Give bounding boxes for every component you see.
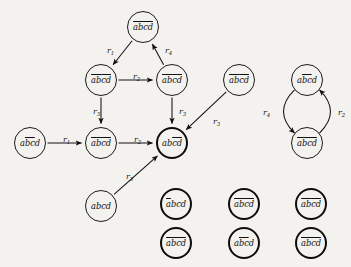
edge-label-subscript: 3 (97, 111, 100, 117)
edge-label-subscript: 2 (137, 76, 140, 82)
state-node: abcd (295, 188, 327, 220)
state-label: abcd (229, 75, 249, 84)
state-node: abcd (160, 227, 192, 259)
edge-label-subscript: 3 (130, 176, 133, 182)
edge-label: r3 (179, 107, 186, 116)
edge-label-subscript: 4 (267, 112, 270, 118)
state-node: abcd (291, 64, 323, 96)
state-label: abcd (162, 75, 182, 84)
state-label: abcd (91, 201, 111, 210)
state-node: abcd (127, 11, 159, 43)
state-label: abcd (166, 238, 186, 247)
state-node: abcd (291, 127, 323, 159)
edge-label-subscript: 3 (217, 121, 220, 127)
state-label: abcd (301, 238, 321, 247)
transition-arrow (113, 41, 132, 65)
transition-arrow (152, 44, 163, 65)
diagram-canvas: abcdabcdabcdabcdabcdabcdabcdabcdabcdabcd… (0, 0, 351, 267)
state-label: abcd (166, 199, 186, 208)
transition-arrow (284, 90, 295, 133)
transition-arrow (319, 90, 330, 133)
edge-label: r1 (107, 46, 114, 55)
state-node: abcd (85, 127, 117, 159)
state-label: abcd (234, 238, 254, 247)
edge-label-subscript: 2 (138, 139, 141, 145)
edge-label: r3 (93, 107, 100, 116)
state-node: abcd (156, 127, 188, 159)
edge-label-subscript: 3 (183, 111, 186, 117)
edge-label: r2 (338, 108, 345, 117)
state-node: abcd (156, 64, 188, 96)
edge-label-subscript: 2 (342, 112, 345, 118)
edge-label: r4 (165, 46, 172, 55)
state-node: abcd (14, 127, 46, 159)
edge-label-subscript: 4 (169, 50, 172, 56)
state-label: abcd (297, 138, 317, 147)
state-label: abcd (91, 75, 111, 84)
edge-label-subscript: 1 (67, 139, 70, 145)
edge-label: r2 (134, 135, 141, 144)
state-label: abcd (91, 138, 111, 147)
state-label: abcd (301, 199, 321, 208)
state-node: abcd (295, 227, 327, 259)
state-node: abcd (160, 188, 192, 220)
edge-label: r3 (126, 172, 133, 181)
state-label: abcd (297, 75, 317, 84)
state-node: abcd (85, 190, 117, 222)
edge-label: r1 (63, 135, 70, 144)
state-label: abcd (234, 199, 254, 208)
state-label: abcd (133, 22, 153, 31)
state-label: abcd (162, 138, 182, 147)
state-node: abcd (85, 64, 117, 96)
edge-label: r4 (263, 108, 270, 117)
state-label: abcd (20, 138, 40, 147)
transition-arrow (114, 156, 157, 194)
state-node: abcd (223, 64, 255, 96)
state-node: abcd (228, 188, 260, 220)
state-node: abcd (228, 227, 260, 259)
edge-label: r3 (213, 117, 220, 126)
edge-label-subscript: 1 (111, 50, 114, 56)
edge-label: r2 (133, 72, 140, 81)
